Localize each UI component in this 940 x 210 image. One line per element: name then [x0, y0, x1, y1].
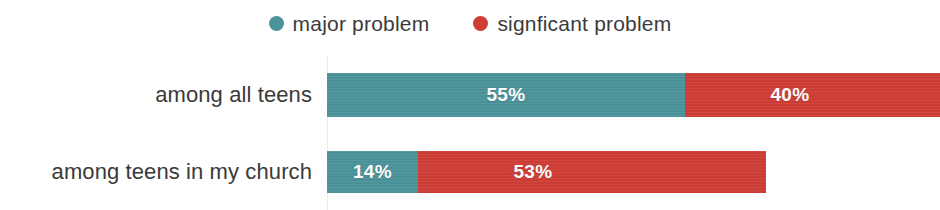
- bar-value-label: 55%: [327, 84, 685, 106]
- bar-row: among teens in my church 14% 53%: [0, 151, 940, 193]
- stacked-bar-among-teens-in-my-church: 14% 53%: [327, 151, 766, 193]
- category-label-among-all-teens: among all teens: [155, 82, 312, 108]
- bar-value-label: 40%: [685, 84, 940, 106]
- bar-segment-significant-problem[interactable]: 40%: [685, 73, 940, 117]
- stacked-bar-among-all-teens: 55% 40%: [327, 73, 940, 117]
- plot-area: among all teens 55% 40% among teens in m…: [0, 0, 940, 210]
- stacked-bar-chart: major problem signficant problem among a…: [0, 0, 940, 210]
- bar-segment-significant-problem[interactable]: 53%: [418, 151, 766, 193]
- bar-value-label: 53%: [418, 161, 766, 183]
- bar-segment-major-problem[interactable]: 14%: [327, 151, 418, 193]
- category-label-among-teens-in-my-church: among teens in my church: [52, 159, 312, 185]
- bar-segment-major-problem[interactable]: 55%: [327, 73, 685, 117]
- bar-row: among all teens 55% 40%: [0, 73, 940, 117]
- bar-value-label: 14%: [327, 161, 418, 183]
